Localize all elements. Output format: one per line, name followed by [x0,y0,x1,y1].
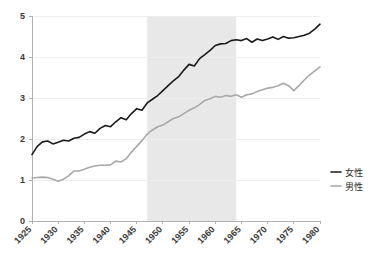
y-tick-label: 5 [20,11,25,21]
y-tick-label: 4 [20,52,25,62]
legend-label: 男性 [345,181,363,192]
shaded-period-band [147,16,236,221]
y-tick-label: 1 [20,175,25,185]
y-tick-label: 0 [20,216,25,226]
shaded-region-rect [147,16,236,221]
chart-container: 012345 192519301935194019451950195519601… [0,0,373,277]
y-tick-label: 3 [20,93,25,103]
legend-label: 女性 [345,167,363,178]
line-chart: 012345 192519301935194019451950195519601… [0,0,373,277]
y-tick-label: 2 [20,134,25,144]
